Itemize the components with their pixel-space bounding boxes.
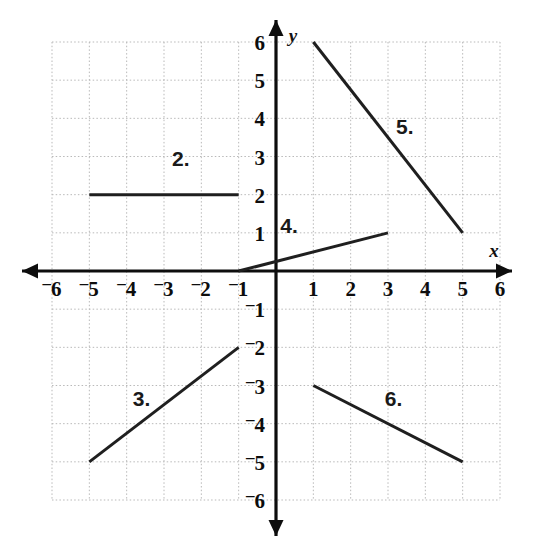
tick-digits: 4 [126, 277, 137, 301]
tick-digits: 4 [255, 413, 266, 437]
tick-digits: 5 [255, 451, 266, 475]
x-tick-label: 5 [457, 277, 468, 301]
y-axis-arrow-down [269, 520, 284, 536]
tick-digits: 5 [88, 277, 99, 301]
tick-digits: 3 [163, 277, 174, 301]
x-tick-label: –3 [154, 274, 174, 301]
y-tick-label: –2 [245, 333, 265, 360]
segment-label: 4. [280, 214, 298, 237]
x-axis-arrow-left [22, 264, 38, 279]
x-tick-label: –2 [191, 274, 211, 301]
x-tick-label: 3 [383, 277, 394, 301]
x-tick-label: –4 [116, 274, 136, 301]
y-axis-name: y [287, 25, 298, 46]
y-tick-label: –3 [245, 372, 265, 399]
y-tick-label: –1 [245, 295, 265, 322]
minus-sign: – [245, 448, 255, 467]
tick-digits: 2 [200, 277, 211, 301]
x-tick-label: 1 [308, 277, 319, 301]
minus-sign: – [116, 274, 126, 293]
coordinate-plane-figure: –6–5–4–3–2–1123456654321–1–2–3–4–5–6 2.3… [0, 0, 534, 558]
minus-sign: – [245, 372, 255, 391]
graph-canvas: –6–5–4–3–2–1123456654321–1–2–3–4–5–6 2.3… [0, 0, 534, 558]
y-tick-label: 1 [255, 222, 266, 246]
minus-sign: – [228, 274, 238, 293]
minus-sign: – [191, 274, 201, 293]
line-segment [313, 42, 462, 233]
segment-label: 3. [133, 387, 151, 410]
tick-digits: 3 [255, 375, 266, 399]
x-tick-label: 4 [420, 277, 431, 301]
minus-sign: – [245, 333, 255, 352]
tick-digits: 6 [255, 489, 266, 513]
segment-label: 6. [385, 387, 403, 410]
tick-digits: 6 [51, 277, 62, 301]
y-tick-label: –6 [245, 486, 265, 513]
y-tick-label: 2 [255, 184, 266, 208]
x-tick-label: –5 [79, 274, 99, 301]
minus-sign: – [79, 274, 89, 293]
y-tick-label: 6 [255, 31, 266, 55]
x-tick-label: 2 [345, 277, 356, 301]
y-tick-label: 3 [255, 146, 266, 170]
y-tick-label: 4 [255, 107, 266, 131]
tick-digits: 2 [255, 336, 266, 360]
tick-digits: 1 [255, 298, 266, 322]
minus-sign: – [154, 274, 164, 293]
x-axis-name: x [488, 240, 499, 261]
minus-sign: – [42, 274, 52, 293]
minus-sign: – [245, 295, 255, 314]
y-axis-arrow-up [269, 20, 284, 36]
y-tick-label: 5 [255, 69, 266, 93]
segment-label: 2. [172, 147, 190, 170]
x-tick-label: –6 [42, 274, 62, 301]
y-tick-label: –4 [245, 410, 266, 437]
x-tick-label: 6 [495, 277, 506, 301]
segment-label: 5. [396, 115, 414, 138]
minus-sign: – [245, 486, 255, 505]
minus-sign: – [245, 410, 255, 429]
y-tick-label: –5 [245, 448, 265, 475]
